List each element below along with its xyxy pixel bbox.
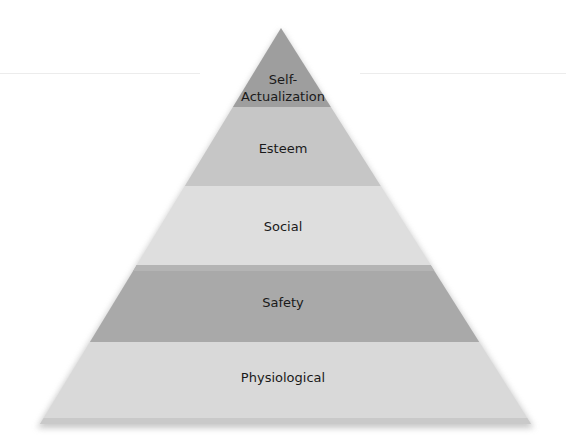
label-social: Social — [0, 219, 566, 235]
label-safety: Safety — [0, 295, 566, 311]
label-physiological: Physiological — [0, 370, 566, 386]
label-self-actualization-line1: Self- — [0, 72, 566, 88]
label-self-actualization-line2: Actualization — [0, 89, 566, 105]
label-esteem: Esteem — [0, 141, 566, 157]
